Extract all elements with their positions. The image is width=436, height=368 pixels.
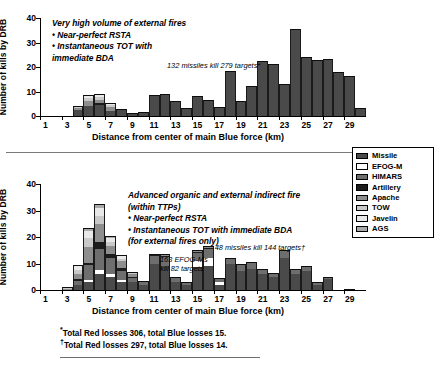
bar bbox=[73, 106, 84, 116]
bar bbox=[138, 281, 149, 290]
legend-item: Apache bbox=[356, 193, 431, 203]
y-axis-title-text: Number of kills by DRB bbox=[0, 189, 8, 286]
bar bbox=[138, 112, 149, 116]
bar-segment-missile bbox=[214, 107, 225, 116]
bar-segment-tow bbox=[83, 238, 94, 247]
x-axis-tick-mark bbox=[170, 117, 171, 120]
chart-legend: MissileEFOG-MHIMARSArtilleryApacheTOWJav… bbox=[352, 147, 434, 238]
bar-segment-missile bbox=[181, 285, 192, 290]
bar-segment-tow bbox=[94, 216, 105, 224]
x-axis-tick-mark bbox=[40, 291, 41, 294]
y-axis-title: Number of kills by DRB bbox=[0, 184, 10, 290]
bar-segment-missile bbox=[225, 71, 236, 116]
bar bbox=[94, 204, 105, 290]
y-axis-tick-label: 30 bbox=[14, 207, 36, 216]
legend-swatch-ags bbox=[356, 226, 368, 233]
x-axis-tick-label: 27 bbox=[323, 121, 332, 130]
x-axis-tick-label: 17 bbox=[215, 295, 224, 304]
bar bbox=[62, 287, 73, 290]
bar bbox=[257, 269, 268, 290]
bar-segment-missile bbox=[268, 64, 279, 116]
bar-segment-apache bbox=[116, 261, 127, 268]
bar bbox=[246, 262, 257, 290]
bar-segment-missile bbox=[268, 277, 279, 290]
x-axis-tick-mark bbox=[149, 291, 150, 294]
x-axis-tick-mark bbox=[323, 117, 324, 120]
bar bbox=[290, 29, 301, 116]
x-axis-tick-mark bbox=[192, 291, 193, 294]
bottom-rule bbox=[60, 357, 260, 358]
x-axis-tick-label: 23 bbox=[280, 295, 289, 304]
legend-item: Artillery bbox=[356, 182, 431, 192]
legend-label: Missile bbox=[372, 152, 397, 160]
x-axis-tick-label: 9 bbox=[130, 121, 135, 130]
bar-segment-missile bbox=[323, 59, 334, 116]
footnote-2-text: Total Red losses 297, total Blue losses … bbox=[64, 341, 228, 350]
x-axis-tick-mark bbox=[257, 291, 258, 294]
bar bbox=[290, 269, 301, 290]
x-axis-tick-mark bbox=[127, 117, 128, 120]
x-axis-line bbox=[40, 290, 366, 291]
legend-item: Missile bbox=[356, 151, 431, 161]
x-axis-tick-mark bbox=[279, 117, 280, 120]
legend-swatch-apache bbox=[356, 195, 368, 202]
x-axis-tick-label: 21 bbox=[258, 121, 267, 130]
x-axis-tick-label: 27 bbox=[323, 295, 332, 304]
bar-segment-missile bbox=[333, 72, 344, 116]
bar-segment-missile bbox=[83, 282, 94, 290]
x-axis-tick-mark bbox=[323, 291, 324, 294]
x-axis-tick-label: 1 bbox=[43, 121, 48, 130]
x-axis-tick-mark bbox=[344, 117, 345, 120]
x-axis-tick-label: 13 bbox=[171, 121, 180, 130]
x-axis-tick-mark bbox=[105, 291, 106, 294]
bar bbox=[323, 59, 334, 116]
bar-segment-apache bbox=[62, 289, 73, 290]
y-axis-tick-label: 30 bbox=[14, 39, 36, 48]
bar bbox=[225, 258, 236, 290]
x-axis-tick-label: 21 bbox=[258, 295, 267, 304]
x-axis-tick-mark bbox=[127, 291, 128, 294]
bar bbox=[301, 266, 312, 290]
bar bbox=[301, 57, 312, 116]
bar-segment-missile bbox=[225, 264, 236, 290]
bar-segment-himars bbox=[236, 264, 247, 272]
bar-segment-missile bbox=[290, 29, 301, 116]
bar-segment-missile bbox=[116, 282, 127, 290]
annotation-bottom-missile-kills: 48 missiles kill 144 targets† bbox=[215, 243, 305, 252]
x-axis-tick-mark bbox=[192, 117, 193, 120]
bar bbox=[344, 289, 355, 290]
x-axis-tick-label: 3 bbox=[65, 295, 70, 304]
legend-label: EFOG-M bbox=[372, 163, 402, 171]
bar-segment-missile bbox=[73, 285, 84, 290]
bar bbox=[279, 84, 290, 116]
figure-root: Number of kills by DRB010203040135791113… bbox=[0, 0, 436, 368]
x-axis-tick-label: 11 bbox=[150, 295, 159, 304]
legend-label: Javelin bbox=[372, 215, 398, 223]
bar-segment-missile bbox=[246, 86, 257, 116]
x-axis-tick-label: 13 bbox=[171, 295, 180, 304]
bar-segment-missile bbox=[236, 101, 247, 116]
bar bbox=[344, 76, 355, 116]
legend-label: HIMARS bbox=[372, 173, 402, 181]
bar-segment-missile bbox=[312, 60, 323, 116]
x-axis-tick-mark bbox=[214, 291, 215, 294]
bar bbox=[105, 103, 116, 116]
bar-segment-missile bbox=[192, 96, 203, 116]
bar-segment-missile bbox=[312, 285, 323, 290]
x-axis-tick-label: 29 bbox=[345, 121, 354, 130]
bar-segment-javelin bbox=[94, 208, 105, 216]
bar bbox=[94, 94, 105, 116]
x-axis-title: Distance from center of main Blue force … bbox=[0, 132, 376, 142]
bar-segment-missile bbox=[279, 84, 290, 116]
bar bbox=[170, 277, 181, 290]
bar-segment-missile bbox=[105, 277, 116, 290]
x-axis-tick-label: 23 bbox=[280, 121, 289, 130]
bar bbox=[83, 95, 94, 116]
y-axis-tick-label: 40 bbox=[14, 180, 36, 189]
x-axis-tick-label: 19 bbox=[236, 121, 245, 130]
bar bbox=[116, 109, 127, 116]
legend-item: HIMARS bbox=[356, 172, 431, 182]
y-axis-tick-label: 40 bbox=[14, 14, 36, 23]
bar bbox=[236, 264, 247, 291]
bar bbox=[246, 86, 257, 116]
